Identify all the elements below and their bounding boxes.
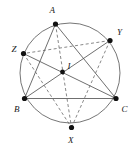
label-I: I — [67, 61, 72, 71]
label-B: B — [14, 104, 20, 114]
segment-YZ — [24, 41, 111, 54]
segment-AC — [56, 24, 117, 99]
vertex-dot-Z — [21, 51, 26, 56]
label-A: A — [49, 5, 56, 15]
label-Z: Z — [12, 44, 18, 54]
label-C: C — [122, 104, 129, 114]
label-Y: Y — [117, 27, 123, 37]
geometry-canvas: A Y Z B C X I — [0, 0, 136, 148]
label-X: X — [67, 135, 74, 145]
vertex-dot-Y — [107, 38, 112, 43]
vertex-dot-B — [22, 96, 27, 101]
incenter-dot-I — [60, 70, 65, 75]
geometry-figure: A Y Z B C X I — [0, 0, 136, 148]
vertex-dot-C — [113, 96, 118, 101]
vertex-labels-group: A Y Z B C X I — [12, 5, 129, 146]
vertex-dot-A — [53, 21, 58, 26]
segment-ZX — [24, 54, 72, 128]
vertex-dot-X — [69, 125, 74, 130]
